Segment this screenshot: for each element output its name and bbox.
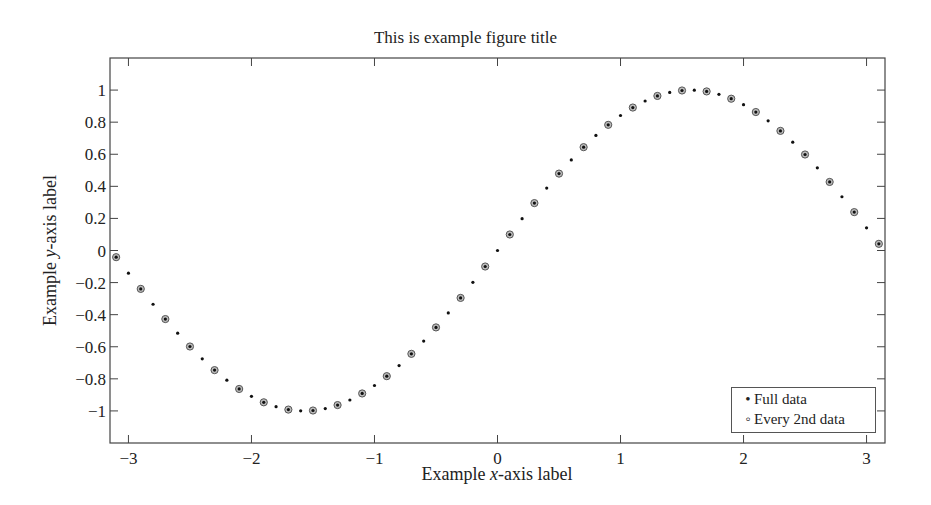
- circle-marker-icon: ◦: [742, 411, 754, 428]
- data-point-dot: [471, 281, 474, 284]
- dot-marker-icon: •: [742, 391, 754, 408]
- data-point-dot: [397, 364, 400, 367]
- data-point-dot: [274, 405, 277, 408]
- data-point-dot: [151, 303, 154, 306]
- data-point-dot: [668, 91, 671, 94]
- y-tick-label: −0.6: [75, 338, 106, 357]
- data-point-dot: [262, 401, 265, 404]
- data-point-dot: [115, 256, 118, 259]
- data-point-dot: [373, 384, 376, 387]
- data-point-dot: [767, 119, 770, 122]
- data-point-dot: [348, 398, 351, 401]
- data-point-dot: [594, 134, 597, 137]
- legend: •Full data ◦Every 2nd data: [731, 387, 876, 433]
- y-tick-label: −1: [88, 402, 106, 421]
- data-point-dot: [754, 110, 757, 113]
- legend-item-every-2nd-data: ◦Every 2nd data: [742, 411, 845, 428]
- data-point-dot: [176, 332, 179, 335]
- y-tick-label: 0.4: [85, 177, 107, 196]
- data-point-dot: [496, 249, 499, 252]
- data-point-dot: [730, 97, 733, 100]
- data-point-dot: [299, 409, 302, 412]
- y-axis-label: Example y-axis label: [40, 121, 61, 381]
- data-point-dot: [680, 89, 683, 92]
- data-point-dot: [557, 172, 560, 175]
- data-point-dot: [582, 146, 585, 149]
- y-tick-label: 0.6: [85, 145, 106, 164]
- data-point-dot: [693, 89, 696, 92]
- data-point-dot: [533, 201, 536, 204]
- data-point-dot: [484, 265, 487, 268]
- data-point-dot: [803, 153, 806, 156]
- data-point-dot: [311, 409, 314, 412]
- data-point-dot: [287, 408, 290, 411]
- data-point-dot: [324, 407, 327, 410]
- data-point-dot: [422, 339, 425, 342]
- data-point-dot: [545, 186, 548, 189]
- x-axis-label: Example x-axis label: [300, 464, 694, 485]
- data-point-dot: [127, 272, 130, 275]
- data-point-dot: [410, 352, 413, 355]
- data-point-dot: [139, 287, 142, 290]
- data-point-dot: [619, 114, 622, 117]
- y-tick-label: 1: [98, 81, 107, 100]
- data-point-dot: [521, 217, 524, 220]
- data-point-dot: [865, 226, 868, 229]
- chart-title: This is example figure title: [0, 28, 931, 48]
- data-point-dot: [853, 211, 856, 214]
- x-tick-label: −3: [119, 449, 137, 468]
- data-point-dot: [644, 99, 647, 102]
- data-point-dot: [188, 345, 191, 348]
- x-tick-label: 2: [739, 449, 748, 468]
- data-point-dot: [742, 103, 745, 106]
- data-point-dot: [791, 141, 794, 144]
- y-tick-label: 0: [98, 242, 107, 261]
- data-point-dot: [570, 158, 573, 161]
- y-tick-label: 0.2: [85, 209, 106, 228]
- data-point-dot: [213, 369, 216, 372]
- legend-item-full-data: •Full data: [742, 391, 807, 408]
- y-tick-label: −0.2: [75, 274, 106, 293]
- data-point-dot: [705, 90, 708, 93]
- data-point-dot: [225, 379, 228, 382]
- data-point-dot: [250, 395, 253, 398]
- data-point-dot: [164, 317, 167, 320]
- data-point-dot: [656, 94, 659, 97]
- data-point-dot: [361, 392, 364, 395]
- data-point-dot: [434, 326, 437, 329]
- x-tick-label: −2: [242, 449, 260, 468]
- data-point-dot: [607, 123, 610, 126]
- data-point-dot: [238, 387, 241, 390]
- y-tick-label: −0.8: [75, 370, 106, 389]
- data-point-dot: [816, 166, 819, 169]
- data-point-dot: [779, 129, 782, 132]
- data-point-dot: [459, 296, 462, 299]
- y-tick-label: −0.4: [75, 306, 106, 325]
- data-point-dot: [631, 106, 634, 109]
- x-tick-label: 3: [862, 449, 871, 468]
- data-point-dot: [336, 403, 339, 406]
- data-point-dot: [877, 242, 880, 245]
- data-point-dot: [385, 375, 388, 378]
- data-point-dot: [828, 180, 831, 183]
- data-point-dot: [717, 93, 720, 96]
- data-point-dot: [840, 195, 843, 198]
- y-tick-label: 0.8: [85, 113, 106, 132]
- data-point-dot: [508, 233, 511, 236]
- data-point-dot: [447, 311, 450, 314]
- data-point-dot: [201, 357, 204, 360]
